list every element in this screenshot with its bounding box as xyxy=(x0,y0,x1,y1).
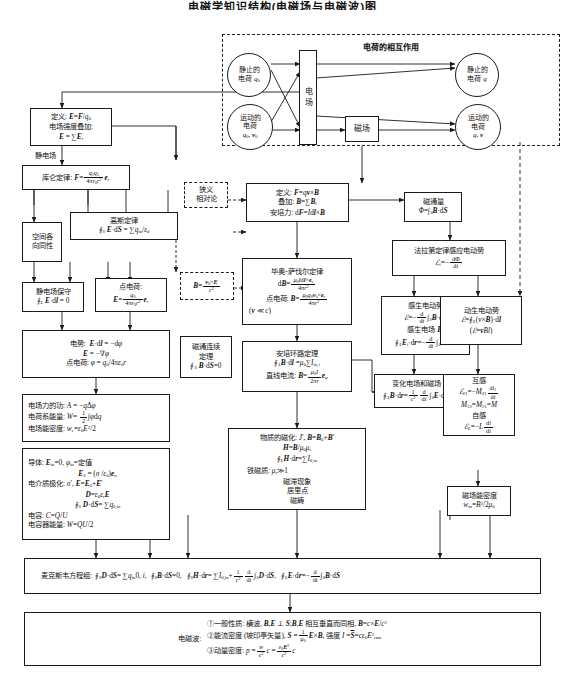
field-def-line1: 定义: E=F/q0 xyxy=(51,112,91,123)
maxwell-eq1: ∮SD·dS= ∑qin0, i, xyxy=(95,571,147,582)
lorentz-line1: 定义: F=qv×B xyxy=(276,188,319,197)
box-work-energy[interactable]: 电场力的功: A = −qΔφ 电荷系能量: W= 12∫φdq 电场能密度: … xyxy=(22,394,170,442)
faraday-expr: ℰi=−dΦdt xyxy=(435,256,462,270)
box-special-relativity[interactable]: 狭义 相对论 xyxy=(184,182,228,208)
point-charge-expr: E=q04πε0r2er xyxy=(113,292,148,308)
node-electric-field-label: 电场 xyxy=(303,87,313,109)
induct-line4: 自感 xyxy=(472,411,486,420)
box-inductance[interactable]: 互感 ℰ21=−M21di1dt M12=M21=M 自感 ℰL=−Ldidt xyxy=(443,374,515,436)
diagram-canvas: 电磁学知识结构(电磁场与电磁波)图 xyxy=(0,0,565,688)
varying-line1: 变化电场和磁场 xyxy=(392,379,441,388)
mag-line5: 磁滞现象 xyxy=(283,477,311,486)
induct-line5: ℰL=−Ldidt xyxy=(464,420,494,434)
ampere-title: 安培环路定理 xyxy=(276,349,318,358)
field-def-line2: 电场强度叠加: xyxy=(49,122,93,131)
box-point-charge-field[interactable]: 点电荷: E=q04πε0r2er xyxy=(95,278,167,312)
cond-line3: 电介质极化: σ′, E=E0+E′ xyxy=(28,479,103,490)
node-magnetic-field-label: 磁场 xyxy=(354,124,370,134)
flux-expr: Φ=∫SB·dS xyxy=(418,206,447,217)
mag-line3: ∮LH·dr=∑I0,in xyxy=(277,454,317,465)
box-coulomb-law[interactable]: 库仑定律: F=q1q24πε0r2er xyxy=(22,165,130,190)
induct-line1: 互感 xyxy=(472,376,486,385)
box-electrostatic-conservative[interactable]: 静电场保守 ∮L E·dl = 0 xyxy=(22,282,84,312)
potential-line3: 点电荷: φ = q0/4πε0r xyxy=(66,358,126,369)
emwave-item3: ③动量密度: p =wc2c =ε0E2c2c xyxy=(207,644,295,659)
node-static-charge-q[interactable]: 静止的电荷 q xyxy=(455,53,499,97)
gauss-expr: ∮S E·dS = ∑qin/ε0 xyxy=(99,225,150,236)
emwave-item2: ②能流密度 (坡印亭矢量), S =1μ0E×B, 强度 I =S=cε0E2r… xyxy=(207,629,381,644)
potential-line2: E = −∇φ xyxy=(83,349,109,358)
box-magnetic-energy-density[interactable]: 磁场能密度 wm=B2/2μ0 xyxy=(447,486,511,516)
gauss-title: 高斯定律 xyxy=(110,216,138,225)
node-static-charge-q-label: 静止的电荷 q xyxy=(467,66,488,84)
box-biot-savart[interactable]: 毕奥-萨伐尔定律 dB=μ0Idl×er4πr2 点电荷: B=μ0q0v0×e… xyxy=(242,258,352,325)
cond-line6: 电容: C=Q/U xyxy=(28,511,67,520)
box-b-field-transform[interactable]: B=v0×Ec2 xyxy=(180,272,234,300)
biot-title: 毕奥-萨伐尔定律 xyxy=(271,267,322,276)
maxwell-eq4: ∮LE·dr=−ddt∫SB·dS xyxy=(281,569,340,583)
label-electrostatic-field: 静电场 xyxy=(34,150,57,160)
flux-cont-line2: 定理 xyxy=(199,352,213,361)
box-flux-continuity[interactable]: 磁通连续 定理 ∮S B·dS=0 xyxy=(180,336,232,378)
box-faraday-law[interactable]: 法拉第定律感应电动势 ℰi=−dΦdt xyxy=(392,240,506,276)
isotropy-line2: 向同性 xyxy=(32,242,53,251)
node-magnetic-field[interactable]: 磁场 xyxy=(345,116,379,142)
varying-line2: ∮LB·dr=1c2ddt∫SE·dS xyxy=(383,389,449,403)
maxwell-label: 麦克斯韦方程组: xyxy=(41,571,92,580)
emwave-label: 电磁波: xyxy=(178,634,201,643)
node-electric-field[interactable]: 电场 xyxy=(299,50,317,145)
work-line2: 电荷系能量: W= 12∫φdq xyxy=(28,410,101,424)
faraday-title: 法拉第定律感应电动势 xyxy=(414,246,484,255)
relativity-line2: 相对论 xyxy=(196,195,217,204)
induced-line1: 感生电动势 xyxy=(408,301,443,310)
node-moving-charge-qv-label: 运动的电荷q, v xyxy=(468,114,489,140)
box-lorentz-ampere[interactable]: 定义: F=qv×B 叠加: B=∑Bi 安培力: dF=Idl×B xyxy=(246,183,349,222)
flux-cont-expr: ∮S B·dS=0 xyxy=(190,361,221,372)
mag-line6: 居里点 xyxy=(287,486,308,495)
node-static-charge-q0-label: 静止的电荷 q0 xyxy=(238,66,260,84)
magenergy-line1: 磁场能密度 xyxy=(462,491,497,500)
cond-line7: 电容器能量: W=QU/2 xyxy=(28,520,93,529)
page-title: 电磁学知识结构(电磁场与电磁波)图 xyxy=(0,0,565,10)
field-def-line3: E = ∑Ei xyxy=(59,132,83,143)
node-moving-charge-q0v0[interactable]: 运动的电荷q0, v0 xyxy=(227,104,273,150)
box-magnetization[interactable]: 物质的磁化: J′, B=B0+B′ H=B/μ0μr ∮LH·dr=∑I0,i… xyxy=(228,428,366,510)
ampere-expr2: 直线电流: B=μ0I2πreφ xyxy=(266,369,327,384)
maxwell-eq3: ∮SH·dr= ∑I0,in+1c2ddt∫SD·dS, xyxy=(187,569,276,583)
box-magnetic-flux[interactable]: 磁通量 Φ=∫SB·dS xyxy=(404,192,462,222)
node-moving-charge-qv[interactable]: 运动的电荷q, v xyxy=(455,104,501,150)
box-ampere-loop[interactable]: 安培环路定理 ∮LB·dl =μ0∑Iin,i 直线电流: B=μ0I2πreφ xyxy=(242,341,352,392)
box-maxwell-equations[interactable]: 麦克斯韦方程组: ∮SD·dS= ∑qin0, i, ∮SB·dS=0, ∮SH… xyxy=(24,558,541,594)
motional-line3: (ℰ=vBl) xyxy=(470,326,493,335)
lorentz-line3: 安培力: dF=Idl×B xyxy=(270,208,325,217)
box-isotropy[interactable]: 空间各 向同性 xyxy=(22,222,62,262)
maxwell-eq2: ∮SB·dS=0, xyxy=(151,571,182,582)
cond-line5: ∮S D·dS= ∑q0,in xyxy=(28,500,167,511)
mag-line7: 磁畴 xyxy=(290,496,304,505)
biot-expr2: 点电荷: B=μ0q0v0×er4πr2 xyxy=(266,292,329,307)
conservative-expr: ∮L E·dl = 0 xyxy=(37,296,70,307)
flux-cont-line1: 磁通连续 xyxy=(192,342,220,351)
motional-line1: 动生电动势 xyxy=(464,306,499,315)
conservative-title: 静电场保守 xyxy=(36,287,71,296)
induct-line2: ℰ21=−M21di1dt xyxy=(459,385,500,400)
box-motional-emf[interactable]: 动生电动势 ℰ=∮L(v×B)·dl (ℰ=vBl) xyxy=(440,296,522,345)
flux-title: 磁通量 xyxy=(423,197,444,206)
potential-line1: 电势: E·dl = −dφ xyxy=(70,339,122,348)
node-moving-charge-q0v0-label: 运动的电荷q0, v0 xyxy=(240,114,261,141)
cond-line2: ES = (σ /ε0)en xyxy=(28,469,167,480)
biot-expr1: dB=μ0Idl×er4πr2 xyxy=(278,277,317,292)
box-potential[interactable]: 电势: E·dl = −dφ E = −∇φ 点电荷: φ = q0/4πε0r xyxy=(22,330,170,378)
box-gauss-law[interactable]: 高斯定律 ∮S E·dS = ∑qin/ε0 xyxy=(70,212,178,240)
node-static-charge-q0[interactable]: 静止的电荷 q0 xyxy=(227,53,271,97)
box-conductor-dielectric[interactable]: 导体: Ein=0, φin=定值 ES = (σ /ε0)en 电介质极化: … xyxy=(22,448,170,540)
box-em-wave[interactable]: 电磁波: ①一般性质: 横波, B,E ⊥ S;B,E 相互垂直而同相, B=c… xyxy=(24,612,541,666)
magenergy-line2: wm=B2/2μ0 xyxy=(463,500,494,511)
box-field-definition[interactable]: 定义: E=F/q0 电场强度叠加: E = ∑Ei xyxy=(30,108,112,146)
work-line3: 电场能密度: we=ε0E2/2 xyxy=(28,424,96,435)
coulomb-expr: 库仑定律: F=q1q24πε0r2er xyxy=(42,170,109,186)
lorentz-line2: 叠加: B=∑Bi xyxy=(278,197,316,208)
induct-line3: M12=M21=M xyxy=(461,400,497,411)
mag-line4: 铁磁质: μr≫1 xyxy=(247,466,288,477)
work-line1: 电场力的功: A = −qΔφ xyxy=(28,401,96,410)
